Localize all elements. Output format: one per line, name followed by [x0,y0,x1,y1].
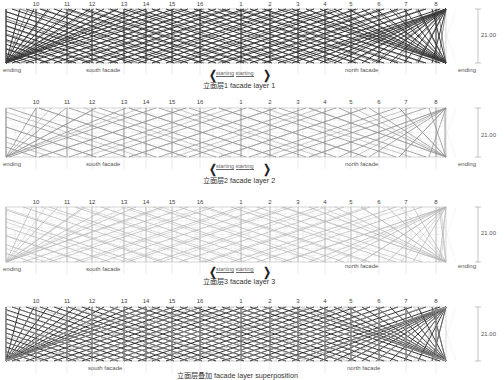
svg-text:5: 5 [349,99,353,105]
facade-elevation-superposition: 1011121314151612345678 [0,285,504,380]
svg-text:4: 4 [323,298,327,304]
svg-text:1: 1 [239,99,243,105]
label-south-facade: south facade [86,67,120,73]
svg-text:2: 2 [268,298,272,304]
svg-text:2: 2 [268,199,272,205]
svg-text:11: 11 [64,99,71,105]
svg-text:13: 13 [121,298,128,304]
svg-text:6: 6 [377,99,381,105]
svg-text:14: 14 [143,1,150,7]
svg-text:6: 6 [377,1,381,7]
svg-text:3: 3 [296,298,300,304]
svg-text:15: 15 [169,298,176,304]
svg-text:16: 16 [197,1,204,7]
starting-markers: starting starting [216,266,254,272]
svg-text:15: 15 [169,99,176,105]
svg-text:15: 15 [169,199,176,205]
svg-text:14: 14 [143,99,150,105]
label-ending-right: ending [458,67,476,73]
svg-text:3: 3 [296,99,300,105]
label-ending-left: ending [3,266,21,272]
svg-text:5: 5 [349,1,353,7]
starting-markers: starting starting [216,70,254,76]
dimension-height: 21.00 [481,132,496,138]
svg-text:13: 13 [121,199,128,205]
dimension-height: 21.00 [481,331,496,337]
svg-text:4: 4 [323,1,327,7]
label-ending-right: ending [458,263,476,269]
svg-text:4: 4 [323,99,327,105]
svg-text:7: 7 [404,298,408,304]
panel-title: 立面层叠加 facade layer superposition [177,370,298,380]
label-north-facade: north facade [345,161,378,167]
svg-text:5: 5 [349,298,353,304]
svg-text:6: 6 [377,298,381,304]
label-ending-left: ending [3,67,21,73]
svg-text:12: 12 [89,1,96,7]
svg-text:13: 13 [121,1,128,7]
brace-right-icon: ❭ [262,162,272,176]
svg-text:7: 7 [404,1,408,7]
panel-title: 立面层2 facade layer 2 [203,175,275,185]
svg-text:3: 3 [296,199,300,205]
dimension-height: 21.00 [481,32,496,38]
svg-text:8: 8 [434,99,438,105]
svg-text:11: 11 [64,298,71,304]
svg-text:4: 4 [323,199,327,205]
svg-text:6: 6 [377,199,381,205]
svg-text:3: 3 [296,1,300,7]
panel-layer-1: 1011121314151612345678 ending south faca… [0,0,504,95]
svg-text:11: 11 [64,199,71,205]
svg-text:8: 8 [434,1,438,7]
svg-text:16: 16 [197,298,204,304]
svg-text:2: 2 [268,1,272,7]
panel-layer-2: 1011121314151612345678 ending south faca… [0,95,504,190]
svg-text:7: 7 [404,199,408,205]
dimension-height: 21.00 [481,230,496,236]
svg-text:12: 12 [89,199,96,205]
svg-text:10: 10 [33,298,40,304]
label-south-facade: south facade [86,161,120,167]
svg-text:10: 10 [33,199,40,205]
svg-text:7: 7 [404,99,408,105]
label-north-facade: north facade [345,263,378,269]
svg-text:10: 10 [33,1,40,7]
label-north-facade: north facade [345,67,378,73]
svg-text:14: 14 [143,199,150,205]
panel-title: 立面层1 facade layer 1 [203,80,275,90]
svg-text:1: 1 [239,199,243,205]
starting-markers: starting starting [216,163,254,169]
svg-text:10: 10 [33,99,40,105]
svg-text:11: 11 [64,1,71,7]
svg-text:16: 16 [197,199,204,205]
svg-text:5: 5 [349,199,353,205]
svg-text:13: 13 [121,99,128,105]
svg-text:2: 2 [268,99,272,105]
label-ending-right: ending [458,161,476,167]
svg-text:8: 8 [434,199,438,205]
label-ending-left: ending [3,161,21,167]
label-south-facade: south facade [86,266,120,272]
label-north-facade: north facade [347,365,380,371]
svg-text:1: 1 [239,1,243,7]
panel-layer-superposition: 1011121314151612345678 south facade nort… [0,285,504,380]
svg-text:14: 14 [143,298,150,304]
svg-text:12: 12 [89,99,96,105]
svg-text:8: 8 [434,298,438,304]
label-south-facade: south facade [88,365,122,371]
svg-text:12: 12 [89,298,96,304]
svg-text:16: 16 [197,99,204,105]
panel-layer-3: 1011121314151612345678 ending south faca… [0,190,504,285]
svg-text:15: 15 [169,1,176,7]
svg-text:1: 1 [239,298,243,304]
